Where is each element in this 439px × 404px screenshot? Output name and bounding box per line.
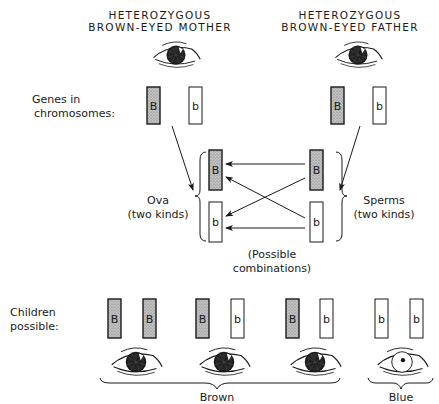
- ovum-chromosome-b: b: [209, 202, 222, 242]
- gene-letter: b: [413, 313, 420, 326]
- child-1-brown-eye-icon: [112, 348, 162, 375]
- gene-letter: b: [376, 100, 383, 113]
- combinations-label-line2: combinations): [233, 262, 311, 275]
- mother-chromosome-b: b: [189, 87, 202, 124]
- gene-letter: b: [192, 100, 199, 113]
- sperms-label: Sperms: [363, 194, 405, 207]
- gene-letter: b: [313, 216, 320, 229]
- ova-brace: [195, 152, 206, 241]
- gene-letter: b: [323, 313, 330, 326]
- gene-letter: B: [150, 100, 158, 113]
- child-2-chromosome-b: b: [231, 299, 244, 338]
- child-1-chromosome-B: B: [143, 299, 156, 338]
- blue-group-label: Blue: [389, 391, 414, 404]
- combinations-label-line1: (Possible: [248, 248, 297, 261]
- mother-brown-eye-icon: [153, 42, 200, 67]
- gene-letter: b: [234, 313, 241, 326]
- gene-letter: B: [199, 313, 207, 326]
- father-brown-eye-icon: [335, 42, 382, 67]
- gene-letter: B: [212, 164, 220, 177]
- children-label-line2: possible:: [10, 320, 59, 333]
- brown-group-label: Brown: [200, 391, 235, 404]
- child-4-chromosome-b: b: [410, 299, 423, 338]
- child-3-chromosome-B: B: [286, 299, 299, 338]
- ova-label: Ova: [147, 194, 169, 207]
- father-to-sperms-arrow: [340, 126, 360, 190]
- children-label-line1: Children: [10, 306, 56, 319]
- sperms-kinds-label: (two kinds): [353, 208, 414, 221]
- gene-letter: b: [378, 313, 385, 326]
- father-title-line1: HETEROZYGOUS: [298, 9, 401, 21]
- genes-label-line2: chromosomes:: [34, 107, 115, 120]
- mother-chromosome-B: B: [147, 87, 160, 124]
- mother-to-ova-arrow: [172, 126, 193, 190]
- child-3-chromosome-b: b: [320, 299, 333, 338]
- child-2-chromosome-B: B: [196, 299, 209, 338]
- ova-kinds-label: (two kinds): [127, 208, 188, 221]
- child-4-blue-eye-icon: [378, 348, 428, 375]
- ovum-chromosome-B: B: [209, 150, 222, 190]
- father-title: HETEROZYGOUS BROWN-EYED FATHER: [281, 9, 419, 33]
- child-3-brown-eye-icon: [291, 348, 341, 375]
- child-1-chromosome-B: B: [108, 299, 121, 338]
- gene-letter: B: [334, 100, 342, 113]
- sperm-chromosome-B: B: [310, 150, 323, 190]
- mother-title-line2: BROWN-EYED MOTHER: [88, 21, 232, 33]
- gene-letter: B: [111, 313, 119, 326]
- sperms-brace: [336, 152, 347, 241]
- mother-title: HETEROZYGOUS BROWN-EYED MOTHER: [88, 9, 232, 33]
- child-4-chromosome-b: b: [375, 299, 388, 338]
- gene-letter: B: [313, 164, 321, 177]
- mother-title-line1: HETEROZYGOUS: [108, 9, 211, 21]
- father-title-line2: BROWN-EYED FATHER: [281, 21, 419, 33]
- genes-label-line1: Genes in: [32, 93, 80, 106]
- inheritance-diagram: HETEROZYGOUS BROWN-EYED MOTHER HETEROZYG…: [0, 0, 439, 404]
- father-chromosome-b: b: [373, 87, 386, 124]
- brown-group-brace: [100, 378, 340, 389]
- child-eyes-layer: [112, 348, 428, 375]
- gene-letter: B: [146, 313, 154, 326]
- child-2-brown-eye-icon: [200, 348, 250, 375]
- gene-letter: b: [212, 216, 219, 229]
- sperm-chromosome-b: b: [310, 202, 323, 242]
- father-chromosome-B: B: [331, 87, 344, 124]
- gene-letter: B: [289, 313, 297, 326]
- blue-group-brace: [368, 378, 433, 389]
